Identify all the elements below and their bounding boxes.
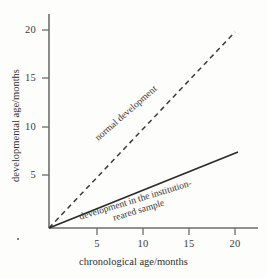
x-tick-label-10: 10	[132, 238, 154, 249]
x-tick-label-15: 15	[178, 238, 200, 249]
x-tick-label-5: 5	[86, 238, 108, 249]
y-tick-label-20: 20	[14, 24, 36, 35]
x-tick-label-20: 20	[224, 238, 246, 249]
chart-plot-area	[0, 0, 267, 278]
chart-figure: 20 15 10 5 5 10 15 20 chronological age/…	[0, 0, 267, 278]
x-axis-title: chronological age/months	[0, 256, 267, 267]
scan-speck	[17, 238, 19, 240]
y-axis-title: developmental age/months	[10, 51, 21, 201]
series-institution-reared	[49, 152, 238, 228]
